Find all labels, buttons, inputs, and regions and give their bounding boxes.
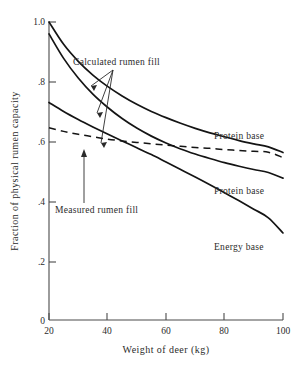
curve-label-protein-base-lower: Protein base <box>214 186 264 196</box>
arrowhead-energy-base <box>101 142 107 148</box>
x-tick-label-1: 40 <box>102 326 112 336</box>
y-axis-title: Fraction of physical rumen capacity <box>9 91 20 251</box>
y-tick-label-1: .2 <box>38 257 45 267</box>
curve-label-energy-base: Energy base <box>214 242 264 252</box>
y-tick-label-0: 0 <box>40 316 45 326</box>
x-ticks-group: 20 40 60 80 100 <box>44 313 290 336</box>
annotation-measured-rumen-fill-text: Measured rumen fill <box>55 205 138 215</box>
arrowhead-measured <box>81 149 87 157</box>
y-tick-label-2: .4 <box>38 197 45 207</box>
chart-plot-area: 1.0 .8 .6 .4 .2 0 20 40 60 80 100 Weight… <box>0 0 305 378</box>
curve-label-protein-base-upper: Protein base <box>214 131 264 141</box>
x-tick-label-4: 100 <box>276 326 291 336</box>
chart-figure: 1.0 .8 .6 .4 .2 0 20 40 60 80 100 Weight… <box>0 0 305 378</box>
arrowhead-protein-lower <box>97 112 103 118</box>
y-ticks-group: 1.0 .8 .6 .4 .2 0 <box>33 17 56 326</box>
annotation-measured-rumen-fill: Measured rumen fill <box>55 149 138 215</box>
y-tick-label-3: .6 <box>38 137 45 147</box>
leader-line-to-protein-lower <box>97 70 113 113</box>
x-tick-label-3: 80 <box>219 326 229 336</box>
x-tick-label-0: 20 <box>44 326 54 336</box>
y-tick-label-5: 1.0 <box>33 17 45 27</box>
x-axis-title: Weight of deer (kg) <box>123 344 210 356</box>
leader-line-to-energy-base <box>101 70 113 143</box>
arrowhead-protein-upper <box>91 85 97 91</box>
y-tick-label-4: .8 <box>38 77 45 87</box>
x-tick-label-2: 60 <box>161 326 171 336</box>
annotation-calculated-rumen-fill-text: Calculated rumen fill <box>73 57 160 67</box>
